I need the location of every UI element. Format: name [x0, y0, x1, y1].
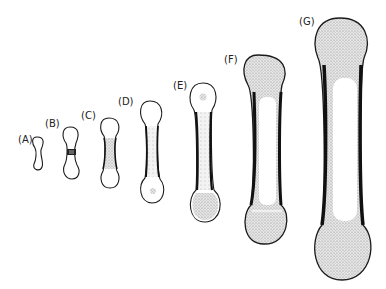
stage-label-f: (F): [224, 54, 238, 65]
stage-label-c: (C): [81, 110, 96, 121]
bone-stage-e: [190, 83, 220, 222]
bone-stage-f: [244, 55, 287, 244]
stage-label-d: (D): [118, 96, 134, 107]
bone-stage-c: [101, 118, 119, 188]
bone-stage-d: [141, 101, 164, 203]
stage-label-g: (G): [299, 16, 315, 27]
stage-label-e: (E): [173, 80, 187, 91]
stage-label-b: (B): [45, 118, 60, 129]
bone-development-diagram: [0, 0, 386, 289]
stage-label-a: (A): [18, 134, 33, 145]
bone-stage-a: [33, 137, 44, 170]
bone-stage-b: [63, 127, 79, 179]
bone-stage-g: [315, 18, 371, 280]
